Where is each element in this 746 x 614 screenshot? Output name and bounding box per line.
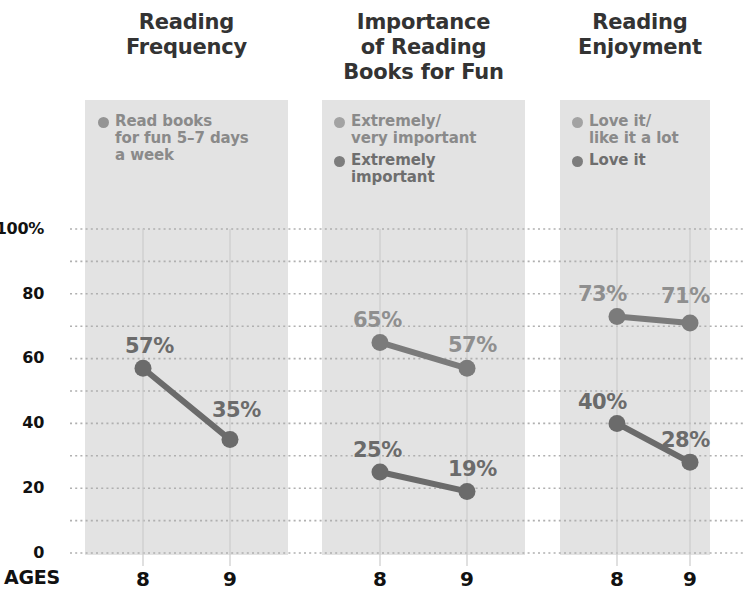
legend-item: Extremely/ very important [334,113,524,147]
data-value-label: 35% [212,398,261,422]
legend-dot-icon [334,156,345,167]
legend-item: Extremely important [334,152,524,186]
legend-panel-2: Extremely/ very important Extremely impo… [334,113,524,191]
series-line-panel3-love-it-like-it-a-lot [609,308,699,332]
legend-dot-icon [334,117,345,128]
data-value-label: 71% [661,284,710,308]
panel-title-reading-frequency: Reading Frequency [85,10,288,60]
legend-item-label: Extremely important [351,152,436,186]
data-value-label: 28% [661,428,710,452]
data-value-label: 57% [125,334,174,358]
legend-item-label: Love it/ like it a lot [589,113,678,147]
data-value-label: 40% [578,390,627,414]
legend-dot-icon [572,117,583,128]
reading-habits-chart: Reading Frequency Importance of Reading … [0,0,746,614]
legend-dot-icon [98,117,109,128]
legend-item: Read books for fun 5–7 days a week [98,113,288,164]
legend-item: Love it/ like it a lot [572,113,722,147]
panel-title-importance-of-reading: Importance of Reading Books for Fun [322,10,525,85]
legend-item-label: Love it [589,152,646,169]
data-value-label: 25% [353,438,402,462]
data-value-label: 73% [578,282,627,306]
plot-area [0,0,746,614]
legend-item-label: Extremely/ very important [351,113,476,147]
data-value-label: 57% [448,333,497,357]
legend-item: Love it [572,152,722,169]
panel-title-reading-enjoyment: Reading Enjoyment [550,10,730,60]
legend-panel-1: Read books for fun 5–7 days a week [98,113,288,169]
legend-dot-icon [572,156,583,167]
data-value-label: 19% [448,457,497,481]
legend-item-label: Read books for fun 5–7 days a week [115,113,249,164]
data-value-label: 65% [353,308,402,332]
legend-panel-3: Love it/ like it a lot Love it [572,113,722,174]
